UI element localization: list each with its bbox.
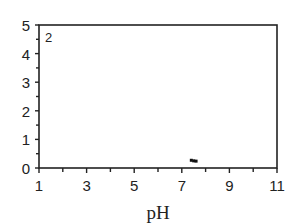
plot-frame (39, 25, 277, 168)
y-tick-label: 5 (22, 17, 30, 34)
x-tick-label: 11 (269, 177, 285, 194)
data-point (195, 160, 198, 163)
y-tick-label: 0 (22, 160, 30, 177)
x-tick-label: 5 (130, 177, 138, 194)
y-tick-label: 2 (22, 103, 30, 120)
x-axis-title: pH (146, 202, 170, 223)
panel-label: 2 (45, 30, 52, 45)
chart: 1357911012345 2 pH (0, 0, 296, 224)
data-points (190, 159, 198, 163)
x-tick-label: 3 (82, 177, 90, 194)
y-tick-label: 4 (22, 46, 30, 63)
axis-ticks (35, 25, 277, 173)
y-tick-label: 3 (22, 74, 30, 91)
y-tick-label: 1 (22, 131, 30, 148)
x-tick-label: 9 (225, 177, 233, 194)
x-tick-label: 1 (35, 177, 43, 194)
x-tick-label: 7 (178, 177, 186, 194)
